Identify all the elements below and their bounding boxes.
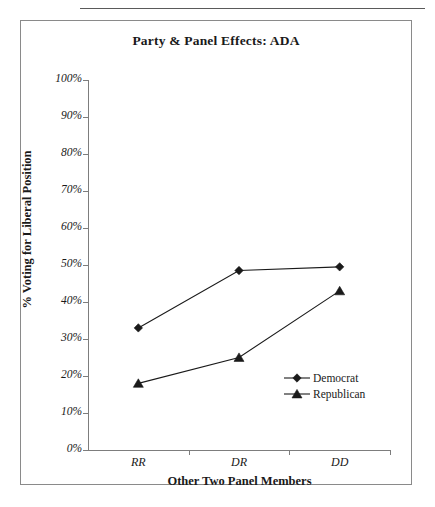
y-axis-tick-label: 100% [30, 72, 82, 84]
y-axis-tick-label: 40% [30, 294, 82, 306]
top-horizontal-rule [80, 8, 425, 9]
y-axis-tick-label: 30% [30, 331, 82, 343]
diamond-marker-icon [283, 371, 311, 385]
x-axis-line [88, 450, 391, 451]
legend-item-republican: Republican [283, 386, 403, 402]
y-axis-tick [83, 450, 88, 451]
y-axis-tick [83, 154, 88, 155]
y-axis-tick-label: 60% [30, 220, 82, 232]
y-axis-tick-label: 90% [30, 109, 82, 121]
y-axis-title: % Voting for Liberal Position [20, 120, 35, 340]
x-axis-tick-label-rr: RR [88, 455, 188, 470]
x-axis-tick-label-dr: DR [189, 455, 289, 470]
x-axis-tick-label-dd: DD [290, 455, 390, 470]
y-axis-tick-label: 10% [30, 405, 82, 417]
y-axis-tick-label: 50% [30, 257, 82, 269]
legend-label: Republican [311, 388, 365, 400]
y-axis-line [88, 80, 89, 451]
y-axis-tick-label: 80% [30, 146, 82, 158]
y-axis-tick [83, 117, 88, 118]
y-axis-tick-label: 70% [30, 183, 82, 195]
y-axis-tick [83, 302, 88, 303]
y-axis-tick [83, 265, 88, 266]
y-axis-tick [83, 80, 88, 81]
y-axis-tick [83, 413, 88, 414]
y-axis-tick-label: 0% [30, 442, 82, 454]
legend-item-democrat: Democrat [283, 370, 403, 386]
chart-legend: DemocratRepublican [283, 370, 403, 402]
legend-label: Democrat [311, 372, 358, 384]
triangle-marker-icon [283, 387, 311, 401]
y-axis-tick [83, 376, 88, 377]
x-axis-tick [390, 450, 391, 455]
y-axis-tick-label: 20% [30, 368, 82, 380]
y-axis-tick [83, 191, 88, 192]
x-axis-title: Other Two Panel Members [88, 474, 391, 489]
y-axis-tick [83, 339, 88, 340]
y-axis-tick [83, 228, 88, 229]
